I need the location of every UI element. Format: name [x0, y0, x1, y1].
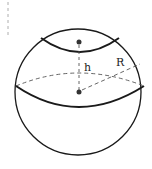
- sphere-diagram: h R: [0, 0, 152, 169]
- base-circle-front: [16, 86, 144, 107]
- height-label: h: [84, 61, 91, 74]
- equator-dashed: [16, 73, 144, 86]
- sphere-center-dot: [77, 90, 82, 95]
- radius-label: R: [116, 56, 125, 69]
- cap-center-dot: [77, 40, 82, 45]
